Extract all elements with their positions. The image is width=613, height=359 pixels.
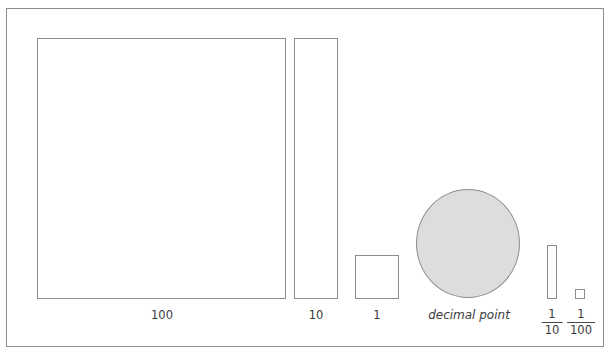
block-one [355,255,399,299]
block-one-hundredth [575,289,585,299]
label-one-tenth-numerator: 1 [542,308,563,321]
block-ten [294,38,338,299]
decimal-point-circle [416,189,520,298]
label-one-hundredth-numerator: 1 [567,308,595,321]
label-one-tenth-denominator: 10 [542,324,563,337]
block-hundred [37,38,286,299]
block-one-tenth [547,245,557,299]
diagram-frame: 100 10 1 decimal point 1 10 1 100 [6,8,604,347]
label-one-hundredth-denominator: 100 [567,324,595,337]
label-ten: 10 [309,310,324,322]
label-one-tenth: 1 10 [542,308,563,337]
label-one-hundredth: 1 100 [567,308,595,337]
label-one: 1 [373,310,380,322]
label-decimal-point: decimal point [428,309,510,321]
diagram-canvas: 100 10 1 decimal point 1 10 1 100 [0,0,613,359]
label-hundred: 100 [151,310,173,322]
